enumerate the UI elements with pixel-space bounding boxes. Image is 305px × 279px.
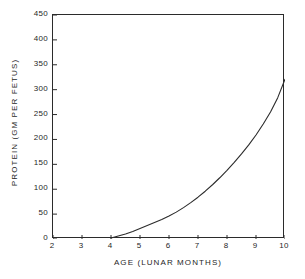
x-axis-title: AGE (LUNAR MONTHS) bbox=[52, 258, 284, 267]
x-tick-label: 8 bbox=[216, 241, 236, 250]
y-tick-label: 50 bbox=[39, 209, 49, 217]
x-tick-label: 5 bbox=[129, 241, 149, 250]
y-tick-label: 300 bbox=[34, 85, 48, 93]
data-series-protein bbox=[111, 79, 285, 238]
x-tick-label: 6 bbox=[158, 241, 178, 250]
y-tick-label: 200 bbox=[34, 134, 48, 142]
y-tick-label: 350 bbox=[34, 60, 48, 68]
plot-canvas bbox=[53, 15, 285, 239]
y-axis-tick-labels: 050100150200250300350400450 bbox=[0, 0, 48, 279]
x-tick-label: 7 bbox=[187, 241, 207, 250]
axis-ticks bbox=[53, 15, 285, 239]
y-tick-label: 100 bbox=[34, 184, 48, 192]
x-tick-label: 3 bbox=[71, 241, 91, 250]
y-tick-label: 150 bbox=[34, 159, 48, 167]
y-tick-label: 450 bbox=[34, 10, 48, 18]
x-tick-label: 4 bbox=[100, 241, 120, 250]
y-tick-label: 400 bbox=[34, 35, 48, 43]
x-tick-label: 2 bbox=[42, 241, 62, 250]
chart-figure: 050100150200250300350400450 AGE (LUNAR M… bbox=[0, 0, 305, 279]
plot-area bbox=[52, 14, 284, 238]
x-tick-label: 9 bbox=[245, 241, 265, 250]
y-tick-label: 250 bbox=[34, 110, 48, 118]
y-axis-title: PROTEIN (GM PER FETUS) bbox=[10, 48, 19, 198]
x-tick-label: 10 bbox=[274, 241, 294, 250]
